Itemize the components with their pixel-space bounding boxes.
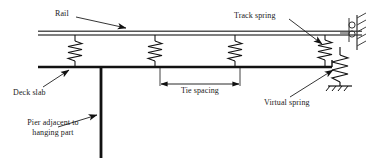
label-rail: Rail bbox=[55, 9, 69, 19]
figure-root: Rail Track spring Deck slab Pier adjacen… bbox=[0, 0, 384, 166]
label-pier-line1: Pier adjacent to bbox=[14, 118, 92, 128]
track-spring-4 bbox=[318, 35, 332, 66]
label-deck-slab: Deck slab bbox=[13, 88, 46, 98]
track-spring-2 bbox=[148, 35, 162, 66]
label-track-spring: Track spring bbox=[234, 11, 276, 21]
tie-spacing-dimension bbox=[160, 68, 240, 86]
rail-leader bbox=[76, 17, 126, 28]
virtual-spring-leader bbox=[290, 70, 333, 97]
track-spring-3 bbox=[228, 35, 242, 66]
ground-hatch bbox=[326, 86, 348, 91]
label-virtual-spring: Virtual spring bbox=[264, 98, 310, 108]
rail-beam bbox=[38, 31, 362, 35]
deck-slab-leader bbox=[43, 70, 69, 87]
label-tie-spacing: Tie spacing bbox=[170, 86, 230, 96]
label-pier-line2: hanging part bbox=[14, 128, 92, 138]
diagram-canvas bbox=[0, 0, 384, 166]
track-spring-1 bbox=[68, 35, 82, 66]
